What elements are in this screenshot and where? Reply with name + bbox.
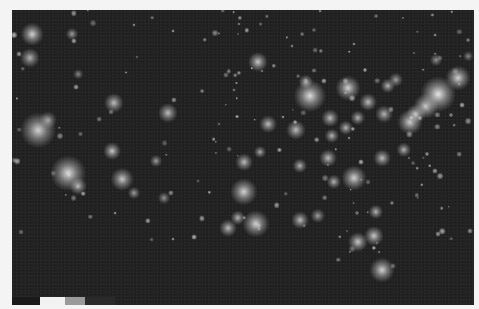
town-light xyxy=(109,110,114,115)
town-light xyxy=(81,192,86,197)
town-light xyxy=(352,202,355,205)
town-light xyxy=(196,180,199,183)
town-light xyxy=(312,28,316,32)
city-light-sacramento xyxy=(40,112,57,129)
town-light xyxy=(202,38,207,43)
town-light xyxy=(125,71,128,74)
town-light xyxy=(300,32,304,36)
town-light xyxy=(449,237,453,241)
city-light-indianapolis xyxy=(322,110,339,127)
town-light xyxy=(318,10,321,12)
town-light xyxy=(366,211,369,214)
town-light xyxy=(349,95,355,101)
city-light-cleveland xyxy=(360,94,377,111)
city-light-tucson xyxy=(128,187,140,199)
city-light-seattle xyxy=(21,23,43,45)
town-light xyxy=(237,33,239,35)
town-light xyxy=(413,52,415,54)
city-light-albuquerque xyxy=(150,155,162,167)
town-light xyxy=(428,164,432,168)
town-light xyxy=(71,195,77,201)
town-light xyxy=(360,178,363,181)
town-light xyxy=(17,52,22,57)
town-light xyxy=(439,228,445,234)
town-light xyxy=(12,32,17,38)
town-light xyxy=(17,127,22,132)
town-light xyxy=(374,14,378,18)
brightness-legend-strip xyxy=(12,297,115,305)
town-light xyxy=(233,73,237,77)
town-light xyxy=(313,48,318,53)
town-light xyxy=(355,211,359,215)
town-light xyxy=(433,34,436,37)
town-light xyxy=(212,137,216,141)
city-light-san-antonio xyxy=(220,220,237,237)
town-light xyxy=(422,68,425,71)
city-light-boston xyxy=(446,66,470,90)
city-light-atlanta xyxy=(342,166,366,190)
town-light xyxy=(411,161,415,165)
town-light xyxy=(200,89,204,93)
town-light xyxy=(257,228,260,231)
town-light xyxy=(261,69,264,72)
city-light-phoenix xyxy=(111,168,133,190)
town-light xyxy=(343,78,349,84)
town-light xyxy=(453,124,456,127)
town-light xyxy=(212,30,218,36)
town-light xyxy=(242,216,246,220)
legend-segment-medium xyxy=(65,297,85,305)
town-light xyxy=(349,188,352,191)
town-light xyxy=(449,113,453,117)
legend-segment-bright xyxy=(40,297,65,305)
town-light xyxy=(274,203,280,209)
town-light xyxy=(90,20,96,26)
town-light xyxy=(434,52,437,55)
town-light xyxy=(312,68,317,73)
town-light xyxy=(460,103,465,108)
town-light xyxy=(74,85,79,90)
town-light xyxy=(391,263,396,268)
town-light xyxy=(409,116,413,120)
town-light xyxy=(348,50,351,53)
town-light xyxy=(162,141,168,147)
town-light xyxy=(232,11,235,14)
town-light xyxy=(452,68,458,74)
town-light xyxy=(57,133,63,139)
town-light xyxy=(322,175,328,181)
city-light-tulsa xyxy=(254,146,266,158)
town-light xyxy=(465,118,471,124)
town-light xyxy=(172,29,175,32)
town-light xyxy=(97,117,102,122)
town-light xyxy=(226,147,231,152)
town-light xyxy=(149,237,154,242)
city-light-boise xyxy=(73,69,83,79)
town-light xyxy=(437,173,443,179)
town-light xyxy=(68,174,71,177)
town-light xyxy=(302,224,306,228)
town-light xyxy=(374,78,380,84)
town-light xyxy=(293,120,297,124)
city-light-kansas-city xyxy=(260,116,277,133)
town-light xyxy=(418,116,422,120)
city-light-maine xyxy=(463,51,473,61)
legend-segment-dim xyxy=(85,297,115,305)
town-light xyxy=(416,167,419,170)
city-light-charlotte xyxy=(374,150,391,167)
town-light xyxy=(347,136,350,139)
city-light-miami xyxy=(370,258,394,282)
town-light xyxy=(349,246,355,252)
town-light xyxy=(14,159,20,165)
town-light xyxy=(322,195,328,201)
town-light xyxy=(233,89,236,92)
town-light xyxy=(378,250,381,253)
town-light xyxy=(415,193,420,198)
town-light xyxy=(314,137,320,143)
town-light xyxy=(457,152,462,157)
town-light xyxy=(296,74,300,78)
town-light xyxy=(467,228,472,233)
legend-segment-dark xyxy=(12,297,40,305)
town-light xyxy=(192,235,197,240)
city-light-las-vegas xyxy=(104,143,121,160)
town-light xyxy=(259,22,263,26)
town-light xyxy=(466,38,470,42)
